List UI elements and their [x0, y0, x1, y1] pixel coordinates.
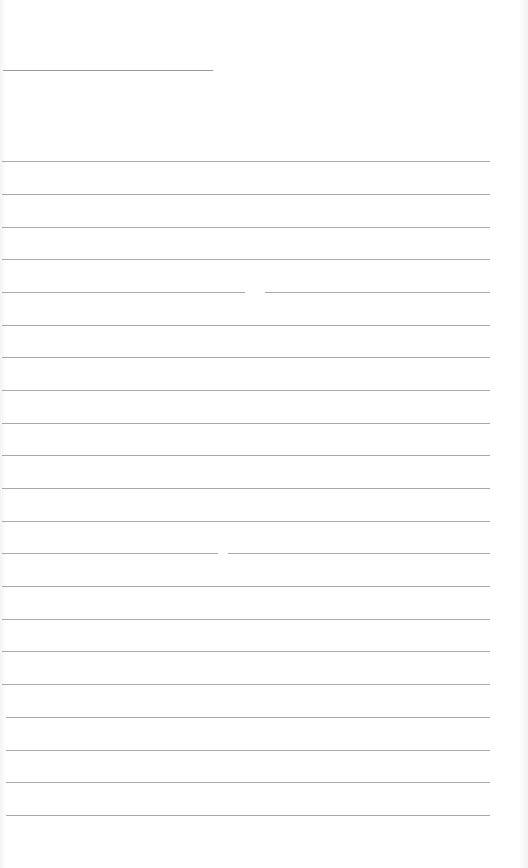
ruled-line: [2, 325, 490, 326]
ruled-line: [265, 292, 490, 293]
ruled-line: [2, 553, 218, 554]
ruled-line: [2, 161, 490, 162]
ruled-line: [6, 717, 490, 718]
ruled-line: [2, 619, 490, 620]
ruled-line: [2, 292, 245, 293]
lined-paper-sheet: [0, 0, 528, 868]
ruled-line: [2, 455, 490, 456]
ruled-line: [2, 423, 490, 424]
header-line: [3, 70, 213, 71]
ruled-line: [2, 357, 490, 358]
ruled-line: [228, 553, 490, 554]
ruled-line: [2, 586, 490, 587]
ruled-line: [2, 259, 490, 260]
ruled-line: [2, 227, 490, 228]
ruled-line: [2, 521, 490, 522]
ruled-line: [6, 750, 490, 751]
ruled-line: [2, 488, 490, 489]
ruled-line: [2, 390, 490, 391]
ruled-line: [6, 815, 490, 816]
ruled-line: [2, 194, 490, 195]
ruled-line: [2, 651, 490, 652]
ruled-line: [6, 782, 490, 783]
ruled-line: [2, 684, 490, 685]
